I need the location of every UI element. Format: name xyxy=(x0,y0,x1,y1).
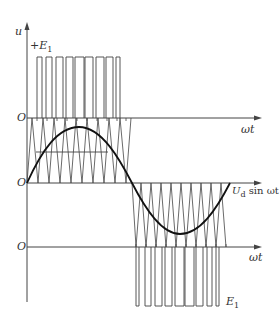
plus-e1-text: +E xyxy=(30,39,47,52)
minus-e1-text: E xyxy=(226,295,234,308)
plus-e1-subscript: 1 xyxy=(47,45,52,54)
positive-pulse-train xyxy=(37,57,120,118)
plus-e1-label: +E1 xyxy=(30,40,52,54)
omega-t-top-label: ωt xyxy=(241,124,254,135)
origin-top-label: O xyxy=(17,112,26,123)
y-axis-arrow-icon xyxy=(25,22,30,30)
minus-e1-subscript: 1 xyxy=(234,301,239,310)
minus-e1-label: E1 xyxy=(226,296,239,310)
origin-bottom-label: O xyxy=(17,241,26,252)
modulating-wave-suffix: sin ωt xyxy=(246,185,279,196)
y-axis-label: u xyxy=(15,26,22,37)
sine-modulating-wave xyxy=(27,127,230,234)
omega-t-bottom-label: ωt xyxy=(249,252,262,263)
triangle-carrier-negative xyxy=(132,183,226,247)
top-axis-arrow-icon xyxy=(254,116,262,121)
origin-middle-label: O xyxy=(17,177,26,188)
modulating-wave-label: Ud sin ωt xyxy=(232,186,279,199)
negative-pulse-train xyxy=(136,247,219,306)
bottom-axis-arrow-icon xyxy=(254,245,262,250)
